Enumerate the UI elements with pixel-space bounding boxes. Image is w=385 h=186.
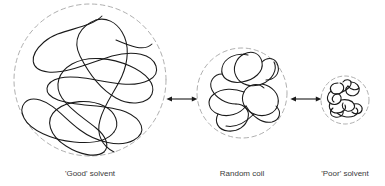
good-solvent-chain [22,16,157,155]
good-solvent-boundary [14,4,166,156]
good-solvent-label: 'Good' solvent [65,169,116,178]
poor-solvent-globule-chain [327,80,362,117]
poor-solvent-label: 'Poor' solvent [321,169,369,178]
random-coil-chain [209,52,279,131]
polymer-conformation-diagram: 'Good' solvent Random coil [0,0,385,186]
panel-poor-solvent: 'Poor' solvent [321,76,370,178]
panel-good-solvent: 'Good' solvent [14,4,166,178]
random-coil-boundary [197,48,287,138]
random-coil-label: Random coil [220,169,265,178]
panel-random-coil: Random coil [197,48,287,178]
